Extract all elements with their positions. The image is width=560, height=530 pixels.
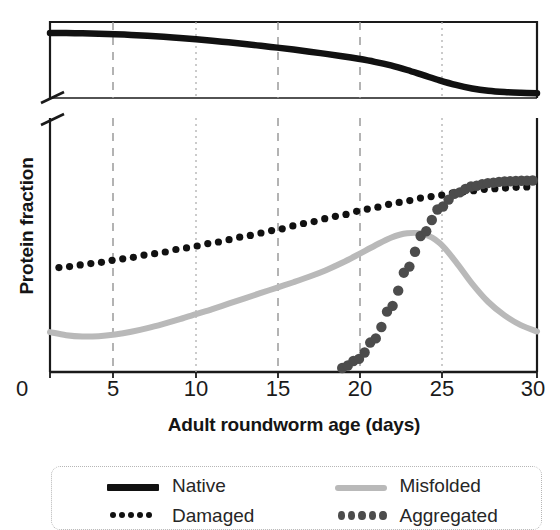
x-tick-label-20: 20 (337, 376, 383, 402)
x-tick-label-15: 15 (255, 376, 301, 402)
legend-swatch-damaged-icon (107, 508, 159, 522)
upper-gridlines (113, 22, 442, 98)
x-axis-title: Adult roundworm age (days) (50, 414, 538, 436)
legend-item-misfolded: Misfolded (297, 476, 543, 495)
legend-label-misfolded: Misfolded (400, 476, 481, 495)
legend-label-native: Native (172, 476, 226, 495)
x-tick-label-5: 5 (90, 376, 136, 402)
legend-swatch-aggregated-icon (335, 508, 387, 522)
legend-swatch-misfolded-icon (335, 485, 387, 491)
legend-label-damaged: Damaged (172, 506, 254, 525)
plot-area (0, 0, 560, 405)
y-axis-break-marks (41, 92, 64, 125)
legend-item-damaged: Damaged (51, 506, 297, 525)
x-tick-label-30: 30 (510, 376, 556, 402)
x-tick-label-0: 0 (0, 376, 45, 402)
legend-swatch-native-icon (107, 484, 159, 491)
legend: Native Misfolded Damaged Aggregated (51, 466, 542, 530)
series-misfolded-line (50, 233, 537, 337)
protein-fraction-chart: Protein fraction (0, 0, 560, 530)
lower-gridlines (113, 118, 442, 372)
x-tick-label-10: 10 (173, 376, 219, 402)
legend-item-native: Native (51, 476, 297, 495)
y-axis-title: Protein fraction (16, 116, 38, 336)
x-tick-label-25: 25 (419, 376, 465, 402)
series-native-line (50, 33, 537, 93)
legend-item-aggregated: Aggregated (297, 506, 543, 525)
series-aggregated-dots (337, 175, 538, 373)
legend-label-aggregated: Aggregated (400, 506, 498, 525)
